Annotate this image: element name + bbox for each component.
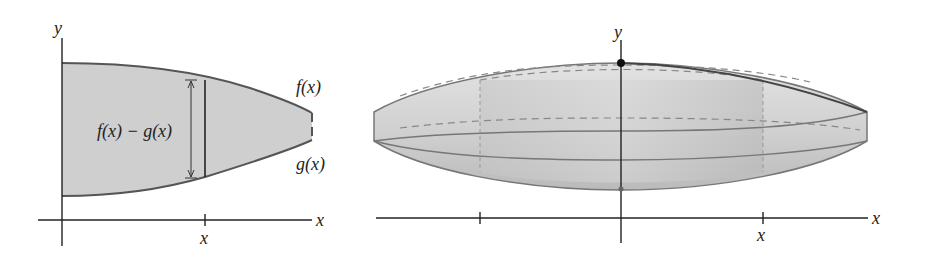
left-x-axis-label: x [315,210,324,230]
left-y-axis-label: y [52,18,62,38]
strip-label: f(x) − g(x) [97,121,172,142]
bottom-point [619,187,624,192]
right-x-axis-label: x [871,208,880,228]
top-point [617,59,625,67]
right-figure: y x x [374,22,880,245]
right-y-axis-label: y [612,22,622,42]
g-curve-label: g(x) [296,154,325,175]
diagram-canvas: y x x f(x) g(x) f(x) − g(x) y x x [0,0,934,258]
f-curve-label: f(x) [296,77,321,98]
left-x-tick-label: x [199,228,208,248]
left-figure: y x x f(x) g(x) f(x) − g(x) [38,18,325,248]
right-x-tick-label: x [756,225,765,245]
